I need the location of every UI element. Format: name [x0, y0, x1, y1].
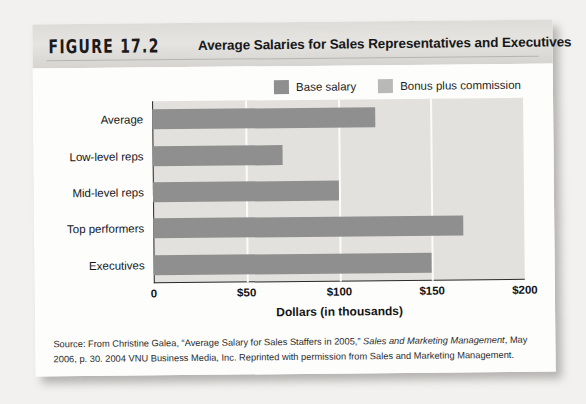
category-label: Low-level reps	[69, 146, 143, 167]
bar-base-salary	[154, 252, 432, 275]
x-tick-label: $100	[327, 285, 353, 297]
legend-label-bonus-plus-commission: Bonus plus commission	[400, 79, 521, 92]
bar-base-salary	[152, 145, 282, 166]
x-tick-label: $50	[237, 286, 256, 298]
bar-row: Executives	[154, 252, 525, 276]
bar-base-salary	[153, 216, 463, 239]
figure-header: FIGURE 17.2 Average Salaries for Sales R…	[32, 20, 552, 69]
figure-number-label: FIGURE 17.2	[48, 34, 159, 57]
source-line2: 2004 VNU Business Media, Inc. Reprinted …	[105, 349, 514, 363]
figure-title: Average Salaries for Sales Representativ…	[198, 34, 572, 53]
legend-entry-base-salary: Base salary	[274, 79, 356, 94]
scanned-page-background: Motivating Salespeople Motivating Salesp…	[0, 0, 586, 404]
source-note: Source: From Christine Galea, “Average S…	[53, 333, 537, 366]
legend-swatch-base-salary	[274, 80, 289, 94]
legend-entry-bonus-plus-commission: Bonus plus commission	[378, 78, 521, 93]
bar-row: Top performers	[153, 215, 524, 239]
bar-row: Low-level reps	[152, 142, 523, 166]
plot-wrap: AverageLow-level repsMid-level repsTop p…	[152, 98, 525, 284]
legend-label-base-salary: Base salary	[296, 80, 356, 93]
figure-card: FIGURE 17.2 Average Salaries for Sales R…	[32, 20, 555, 377]
source-line1-italic: Sales and Marketing Management	[363, 335, 505, 346]
category-label: Average	[101, 110, 144, 130]
legend-swatch-bonus-plus-commission	[378, 79, 393, 93]
chart-body: Base salary Bonus plus commission Averag…	[33, 64, 556, 377]
category-label: Mid-level reps	[72, 182, 144, 203]
category-label: Executives	[89, 255, 145, 276]
bar-base-salary	[152, 107, 375, 129]
category-label: Top performers	[67, 219, 145, 240]
x-tick-label: 0	[151, 287, 158, 299]
source-line1-prefix: Source: From Christine Galea, “Average S…	[53, 337, 363, 350]
x-axis-title: Dollars (in thousands)	[154, 303, 525, 321]
x-tick-label: $200	[512, 284, 538, 296]
x-tick-label: $150	[419, 285, 445, 297]
x-axis-tick-labels: 0$50$100$150$200	[154, 280, 525, 304]
bar-base-salary	[153, 181, 339, 203]
bar-row: Mid-level reps	[153, 179, 524, 203]
bar-row: Average	[152, 106, 523, 130]
